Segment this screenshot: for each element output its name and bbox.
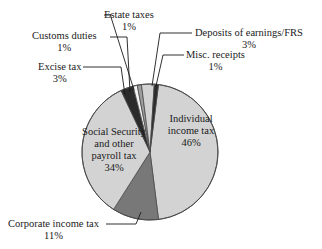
- slice-label-social-line1: Social Security: [72, 126, 156, 138]
- slice-label-individual-income-tax: Individual income tax 46%: [160, 113, 222, 149]
- slice-label-customs-duties: Customs duties 1%: [32, 30, 96, 53]
- slice-label-excise-tax-pct: 3%: [38, 73, 81, 85]
- slice-label-customs-duties-pct: 1%: [32, 42, 96, 54]
- slice-label-social-pct: 34%: [72, 162, 156, 174]
- slice-label-estate-taxes: Estate taxes 1%: [104, 9, 154, 32]
- slice-label-misc-receipts: Misc. receipts 1%: [186, 49, 245, 72]
- slice-label-individual-line2: income tax: [160, 125, 222, 137]
- slice-label-estate-taxes-pct: 1%: [104, 21, 154, 33]
- slice-label-corporate-income-tax: Corporate income tax 11%: [8, 218, 99, 241]
- slice-label-social-line3: payroll tax: [72, 150, 156, 162]
- leader-line-excise-tax: [83, 67, 125, 95]
- slice-label-social-line2: and other: [72, 138, 156, 150]
- slice-label-individual-pct: 46%: [160, 137, 222, 149]
- slice-label-customs-duties-name: Customs duties: [32, 30, 96, 41]
- slice-label-excise-tax: Excise tax 3%: [38, 61, 81, 84]
- pie-slice-individual-income-tax[interactable]: [150, 85, 218, 220]
- slice-label-deposits-name: Deposits of earnings/FRS: [195, 27, 303, 38]
- slice-label-estate-taxes-name: Estate taxes: [104, 9, 154, 20]
- slice-label-corporate-name: Corporate income tax: [8, 218, 99, 229]
- slice-label-corporate-pct: 11%: [8, 230, 99, 242]
- pie-chart-figure: Estate taxes 1% Customs duties 1% Excise…: [0, 0, 322, 249]
- slice-label-misc-receipts-pct: 1%: [186, 61, 245, 73]
- slice-label-individual-line1: Individual: [160, 113, 222, 125]
- slice-label-misc-receipts-name: Misc. receipts: [186, 49, 245, 60]
- slice-label-deposits-of-earnings: Deposits of earnings/FRS 3%: [195, 27, 303, 50]
- slice-label-social-security: Social Security and other payroll tax 34…: [72, 126, 156, 174]
- slice-label-excise-tax-name: Excise tax: [38, 61, 81, 72]
- leader-line-misc-receipts: [156, 55, 184, 86]
